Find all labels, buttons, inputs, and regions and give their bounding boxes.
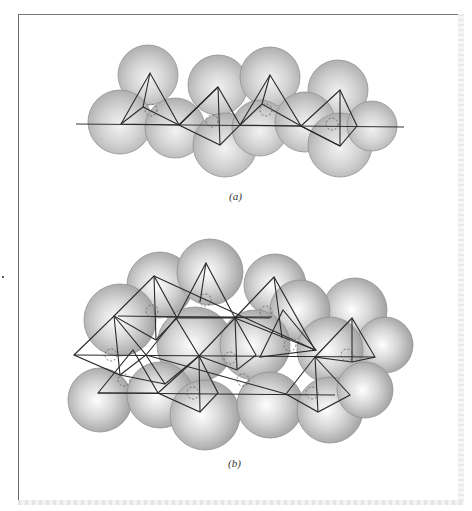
panel-a-oxygen-spheres [88,45,397,177]
silicate-chain-diagram [0,0,472,511]
panel-a-caption: (a) [229,190,242,202]
panel-b-caption: (b) [228,457,241,469]
panel-b-oxygen-spheres [68,239,413,450]
